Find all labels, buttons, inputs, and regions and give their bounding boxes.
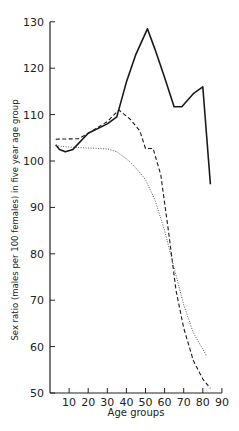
y-axis-label: Sex ratio (males per 100 females) in fiv… [10, 99, 20, 340]
x-tick-label: 80 [196, 396, 210, 409]
y-tick-label: 120 [23, 62, 44, 75]
y-tick-label: 130 [23, 16, 44, 29]
axes: 5060708090100110120130102030405060708090 [23, 16, 229, 409]
y-tick-label: 110 [23, 109, 44, 122]
x-tick-label: 70 [177, 396, 191, 409]
sex-ratio-chart: 5060708090100110120130102030405060708090… [0, 0, 239, 431]
series-lines [56, 29, 211, 389]
y-tick-label: 70 [30, 294, 44, 307]
x-tick-label: 10 [62, 396, 76, 409]
x-axis-label: Age groups [108, 407, 165, 418]
x-tick-label: 90 [215, 396, 229, 409]
y-tick-label: 80 [30, 248, 44, 261]
y-tick-label: 50 [30, 387, 44, 400]
y-tick-label: 100 [23, 155, 44, 168]
y-tick-label: 90 [30, 201, 44, 214]
series-dashed-line [56, 110, 211, 388]
series-solid-line [56, 29, 211, 184]
series-dotted-line [56, 146, 207, 356]
x-tick-label: 20 [81, 396, 95, 409]
y-tick-label: 60 [30, 341, 44, 354]
